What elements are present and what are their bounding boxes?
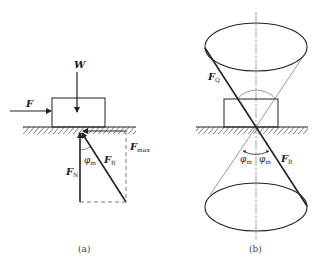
friction-angle-label-a: φm [84, 155, 96, 166]
friction-angle-arc-a [80, 147, 90, 150]
caption-b: (b) [249, 244, 262, 254]
applied-force-label: F [25, 98, 34, 109]
angle-left-label: φm [240, 154, 252, 165]
normal-force-label: FN [65, 166, 78, 178]
active-force-label: FQ [207, 71, 220, 83]
block-a [52, 98, 105, 127]
resultant-label: FR [103, 154, 116, 166]
block-b [224, 99, 278, 127]
panel-b: FQ FR φm φm (b) [196, 12, 308, 254]
resultant-label-b: FR [280, 153, 293, 165]
weight-label: W [74, 59, 87, 70]
angle-right-label: φm [259, 154, 271, 165]
panel-a: W F FN FR Fmax φm (a) [10, 59, 150, 254]
friction-diagram: W F FN FR Fmax φm (a) [0, 0, 322, 265]
max-friction-label: Fmax [129, 141, 150, 153]
caption-a: (a) [78, 244, 90, 254]
resultant-arrow [82, 133, 126, 202]
ground-b [196, 127, 308, 134]
cone-arc-top [237, 90, 276, 99]
